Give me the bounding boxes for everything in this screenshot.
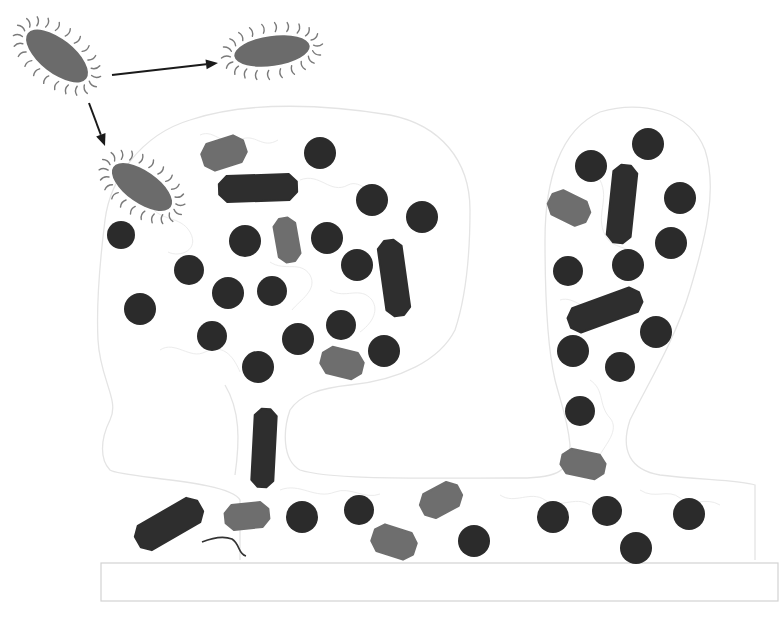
coccus-cell: [286, 501, 318, 533]
coccus-cell: [174, 255, 204, 285]
coccus-cell: [311, 222, 343, 254]
coccus-cell: [640, 316, 672, 348]
arrowhead-icon: [206, 59, 218, 69]
coccus-cell: [326, 310, 356, 340]
coccus-cell: [592, 496, 622, 526]
coccus-cell: [229, 225, 261, 257]
coccus-cell: [575, 150, 607, 182]
coccus-cell: [341, 249, 373, 281]
coccus-cell: [664, 182, 696, 214]
arrow-to-swimming: [112, 59, 218, 75]
coccus-cell: [257, 276, 287, 306]
coccus-cell: [632, 128, 664, 160]
biofilm-diagram: [0, 0, 780, 625]
coccus-cell: [612, 249, 644, 281]
rod-cell-dark: [565, 285, 645, 335]
coccus-cell: [565, 396, 595, 426]
left-stalk-outline: [225, 385, 238, 475]
diagram-canvas: [0, 0, 780, 625]
coccus-cell: [620, 532, 652, 564]
rod-cell-light: [318, 345, 365, 381]
coccus-cell: [537, 501, 569, 533]
rod-cell-light: [416, 478, 466, 522]
arrowhead-icon: [96, 133, 105, 146]
coccus-cell: [557, 335, 589, 367]
coccus-cell: [673, 498, 705, 530]
coccus-cell: [368, 335, 400, 367]
planktonic-cells: [0, 2, 326, 238]
rod-cell-dark: [251, 408, 277, 487]
coccus-cell: [197, 321, 227, 351]
coccus-cell: [242, 351, 274, 383]
coccus-cell: [406, 201, 438, 233]
coccus-cell: [344, 495, 374, 525]
coccus-cell: [282, 323, 314, 355]
coccus-cell: [107, 221, 135, 249]
arrow-to-attachment: [89, 103, 106, 146]
coccus-cell: [124, 293, 156, 325]
coccus-cell: [356, 184, 388, 216]
rod-cell-light: [559, 447, 607, 481]
transition-arrows: [89, 59, 218, 146]
cell-body: [104, 154, 180, 220]
coccus-cell: [212, 277, 244, 309]
rod-cell-light: [544, 187, 594, 230]
rod-cell-dark: [131, 494, 207, 554]
substrate-surface: [101, 563, 778, 601]
rod-cell-light: [272, 216, 301, 263]
cell-body: [17, 20, 96, 92]
motile-cell-swimming: [218, 16, 327, 85]
coccus-cell: [458, 525, 490, 557]
rod-cell-light: [224, 501, 270, 530]
cell-body: [232, 31, 311, 71]
rod-cell-dark: [606, 164, 638, 244]
coccus-cell: [304, 137, 336, 169]
rod-cell-light: [369, 522, 419, 562]
rod-cell-dark: [219, 174, 298, 203]
coccus-cell: [655, 227, 687, 259]
rod-cell-light: [199, 133, 249, 173]
coccus-cell: [605, 352, 635, 382]
rod-cell-dark: [377, 239, 411, 318]
motile-cell-origin: [0, 2, 115, 111]
coccus-cell: [553, 256, 583, 286]
